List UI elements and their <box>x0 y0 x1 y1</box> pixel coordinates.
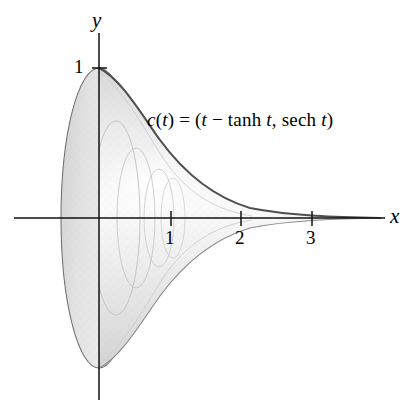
body-highlight <box>98 144 206 224</box>
x-axis-label: x <box>390 206 399 227</box>
figure-canvas <box>0 0 417 408</box>
x-tick-label-2: 2 <box>235 228 245 247</box>
x-tick-label-1: 1 <box>165 228 175 247</box>
y-axis-label: y <box>92 10 101 31</box>
tractricoid-figure: x y 1 1 2 3 c(t) = (t − tanh t, sech t) <box>0 0 417 408</box>
x-tick-label-3: 3 <box>306 228 316 247</box>
equation-annotation: c(t) = (t − tanh t, sech t) <box>147 110 333 129</box>
y-tick-label-1: 1 <box>74 57 84 76</box>
equation-text: c(t) = (t − tanh t, sech t) <box>147 109 333 130</box>
